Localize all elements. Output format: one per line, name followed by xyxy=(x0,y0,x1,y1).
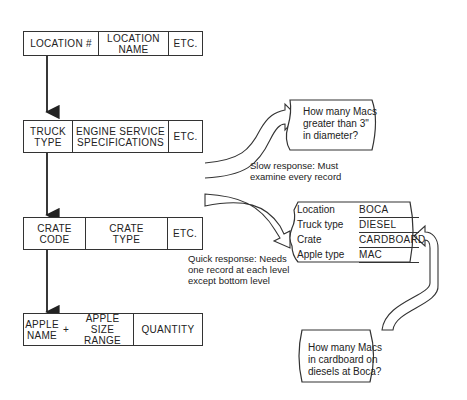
quick-query-question: How many Macs in cardboard on diesels at… xyxy=(308,342,382,378)
field-location-name: LOCATION NAME xyxy=(99,32,169,55)
field-apple-size-range: APPLE SIZE RANGE xyxy=(72,314,134,345)
record-truck: TRUCK TYPE ENGINE SERVICE SPECIFICATIONS… xyxy=(23,120,203,153)
key-value: CARDBOARD xyxy=(359,233,419,248)
key-values-table: LocationBOCA Truck typeDIESEL CrateCARDB… xyxy=(297,203,419,263)
field-crate-code: CRATE CODE xyxy=(24,218,86,249)
key-label: Location xyxy=(297,203,359,218)
record-apple: APPLE NAME + APPLE SIZE RANGE QUANTITY xyxy=(23,313,203,346)
key-value: BOCA xyxy=(359,203,419,218)
field-etc: ETC. xyxy=(169,121,202,152)
field-truck-type: TRUCK TYPE xyxy=(24,121,73,152)
slow-response-note: Slow response: Must examine every record xyxy=(250,160,341,182)
field-engine-service-specs: ENGINE SERVICE SPECIFICATIONS xyxy=(73,121,169,152)
record-location: LOCATION # LOCATION NAME ETC. xyxy=(23,31,203,56)
key-row: CrateCARDBOARD xyxy=(297,233,419,248)
field-location-number: LOCATION # xyxy=(24,32,99,55)
record-crate: CRATE CODE CRATE TYPE ETC. xyxy=(23,217,203,250)
field-etc: ETC. xyxy=(169,32,202,55)
key-row: LocationBOCA xyxy=(297,203,419,218)
quick-query-arrow xyxy=(205,194,290,248)
field-quantity: QUANTITY xyxy=(134,314,202,345)
key-label: Truck type xyxy=(297,218,359,233)
plus-sign: + xyxy=(60,314,72,345)
key-value: DIESEL xyxy=(359,218,419,233)
key-row: Truck typeDIESEL xyxy=(297,218,419,233)
field-apple-name: APPLE NAME xyxy=(24,314,60,345)
field-crate-type: CRATE TYPE xyxy=(86,218,168,249)
key-label: Crate xyxy=(297,233,359,248)
quick-response-note: Quick response: Needs one record at each… xyxy=(188,253,289,286)
key-row: Apple typeMAC xyxy=(297,248,419,263)
field-etc: ETC. xyxy=(168,218,202,249)
slow-query-question: How many Macs greater than 3" in diamete… xyxy=(303,106,377,142)
key-label: Apple type xyxy=(297,248,359,263)
key-value: MAC xyxy=(359,248,419,263)
